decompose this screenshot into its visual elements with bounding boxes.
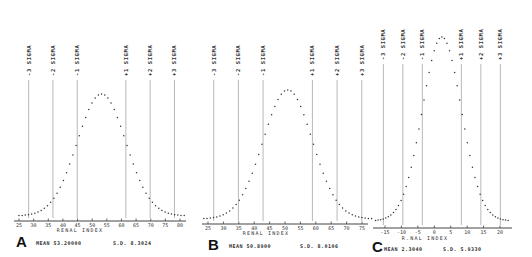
- curve-point: [28, 214, 30, 216]
- curve-point: [500, 218, 502, 220]
- curve-point: [145, 192, 147, 194]
- sd-label: S.D. 8.0106: [300, 243, 339, 249]
- x-tick-label: 15: [481, 229, 487, 235]
- sigma-label: +2 SIGMA: [478, 29, 484, 60]
- curve-point: [423, 99, 425, 101]
- curve-point: [164, 211, 166, 213]
- curve-point: [426, 85, 428, 87]
- curve-point: [335, 199, 337, 201]
- curve-point: [416, 142, 418, 144]
- curve-point: [431, 60, 433, 62]
- sigma-label: +3 SIGMA: [171, 45, 177, 76]
- sigma-label: -1 SIGMA: [260, 45, 266, 76]
- curve-point: [226, 212, 228, 214]
- curve-point: [368, 218, 370, 220]
- sigma-label: -2 SIGMA: [50, 45, 56, 76]
- curve-point: [85, 117, 87, 119]
- curve-point: [268, 123, 270, 125]
- x-tick-label: 75: [162, 222, 168, 228]
- curve-point: [482, 200, 484, 202]
- curve-point: [245, 188, 247, 190]
- curve-point: [382, 218, 384, 220]
- sigma-label: -3 SIGMA: [380, 29, 386, 60]
- curve-point: [104, 94, 106, 96]
- curve-point: [459, 99, 461, 101]
- curve-point: [371, 218, 373, 220]
- curve-point: [242, 194, 244, 196]
- curve-point: [34, 212, 36, 214]
- curve-point: [229, 210, 231, 212]
- curve-point: [98, 94, 100, 96]
- curve-point: [495, 216, 497, 218]
- sigma-label: -1 SIGMA: [74, 45, 80, 76]
- panel-letter-a: A: [16, 233, 27, 250]
- curve-point: [161, 210, 163, 212]
- curve-point: [213, 217, 215, 219]
- curve-point: [319, 163, 321, 165]
- curve-point: [408, 177, 410, 179]
- curve-point: [507, 220, 509, 222]
- sd-label: S.D. 5.9330: [443, 246, 482, 252]
- curve-point: [492, 214, 494, 216]
- curve-point: [91, 102, 93, 104]
- x-tick-label: 75: [359, 225, 365, 231]
- x-tick-label: 5: [449, 229, 452, 235]
- curve-point: [479, 193, 481, 195]
- curve-point: [271, 114, 273, 116]
- curve-point: [398, 205, 400, 207]
- curve-point: [75, 145, 77, 147]
- curve-point: [421, 114, 423, 116]
- curve-point: [261, 144, 263, 146]
- curve-point: [297, 99, 299, 101]
- curve-point: [456, 85, 458, 87]
- curve-point: [277, 99, 279, 101]
- curve-point: [177, 214, 179, 216]
- curve-point: [274, 106, 276, 108]
- curve-point: [472, 167, 474, 169]
- curve-point: [497, 217, 499, 219]
- curve-point: [454, 72, 456, 74]
- sigma-label: -3 SIGMA: [26, 45, 32, 76]
- curve-point: [339, 204, 341, 206]
- curve-point: [329, 188, 331, 190]
- curve-point: [216, 216, 218, 218]
- curve-point: [395, 209, 397, 211]
- curve-point: [284, 90, 286, 92]
- curve-point: [101, 93, 103, 95]
- curve-point: [375, 220, 377, 222]
- curve-point: [139, 180, 141, 182]
- x-tick-label: 60: [313, 225, 319, 231]
- curve-point: [31, 213, 33, 215]
- curve-point: [413, 155, 415, 157]
- curve-point: [69, 163, 71, 165]
- curve-point: [82, 126, 84, 128]
- curve-point: [219, 215, 221, 217]
- curve-point: [183, 215, 185, 217]
- curve-point: [222, 214, 224, 216]
- sigma-label: +2 SIGMA: [147, 45, 153, 76]
- curve-point: [464, 128, 466, 130]
- curve-point: [490, 212, 492, 214]
- curve-point: [393, 212, 395, 214]
- curve-point: [206, 218, 208, 220]
- x-tick-label: 30: [220, 225, 226, 231]
- x-tick-label: 70: [344, 225, 350, 231]
- curve-point: [316, 154, 318, 156]
- curve-point: [400, 200, 402, 202]
- sigma-label: -1 SIGMA: [419, 29, 425, 60]
- curve-point: [158, 208, 160, 210]
- curve-point: [180, 215, 182, 217]
- curve-point: [168, 212, 170, 214]
- curve-point: [114, 109, 116, 111]
- x-tick-label: 55: [297, 225, 303, 231]
- curve-point: [300, 106, 302, 108]
- curve-point: [355, 215, 357, 217]
- curve-point: [123, 135, 125, 137]
- curve-point: [255, 163, 257, 165]
- curve-point: [322, 172, 324, 174]
- panel-letter-b: B: [208, 236, 219, 253]
- sd-label: S.D. 8.3024: [113, 240, 152, 246]
- curve-point: [293, 94, 295, 96]
- curve-point: [358, 216, 360, 218]
- curve-point: [203, 218, 205, 220]
